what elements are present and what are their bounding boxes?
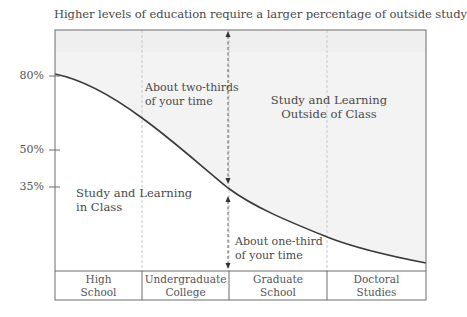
annotation-line: About two-thirds (145, 81, 239, 95)
in-class-label: Study and Learning in Class (76, 186, 192, 214)
top-band (55, 30, 426, 52)
region-label-line: Study and Learning (254, 93, 404, 107)
category-label-line: Doctoral (354, 273, 400, 286)
category-graduate-school: Graduate School (229, 272, 327, 300)
category-label-line: School (81, 286, 117, 299)
region-label-line: in Class (76, 200, 192, 214)
y-tick-label: 35% (14, 180, 44, 193)
category-label-line: School (253, 286, 303, 299)
category-undergraduate-college: Undergraduate College (142, 272, 229, 300)
annotation-line: of your time (235, 249, 323, 263)
outside-class-label: Study and Learning Outside of Class (254, 93, 404, 121)
category-doctoral-studies: Doctoral Studies (327, 272, 426, 300)
annotation-line: About one-third (235, 235, 323, 249)
category-label-line: Undergraduate (145, 273, 227, 286)
category-label-line: Studies (354, 286, 400, 299)
two-thirds-annotation: About two-thirds of your time (145, 81, 239, 109)
y-tick-label: 50% (14, 143, 44, 156)
category-high-school: High School (55, 272, 142, 300)
outside-region-fill (55, 30, 426, 263)
category-label-line: Graduate (253, 273, 303, 286)
region-label-line: Outside of Class (254, 107, 404, 121)
y-tick-label: 80% (14, 69, 44, 82)
one-third-annotation: About one-third of your time (235, 235, 323, 263)
annotation-line: of your time (145, 95, 239, 109)
category-label-line: High (81, 273, 117, 286)
category-label-line: College (145, 286, 227, 299)
region-label-line: Study and Learning (76, 186, 192, 200)
arrow-down-icon (226, 263, 231, 269)
arrow-up-icon (226, 196, 231, 202)
